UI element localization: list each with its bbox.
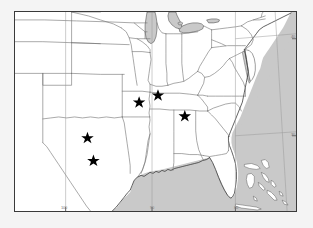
tick-label-longitude-80: 80 (234, 206, 238, 210)
tick-label-latitude-30: 30 (291, 133, 295, 137)
map-canvas (15, 12, 296, 211)
map-frame: 100 90 80 40 30 (14, 11, 297, 212)
tick-label-latitude-40: 40 (291, 35, 295, 39)
tick-label-longitude-100: 100 (61, 206, 67, 210)
tick-label-longitude-90: 90 (150, 206, 154, 210)
lake-ontario (207, 19, 220, 23)
map-figure: 100 90 80 40 30 (0, 0, 313, 228)
